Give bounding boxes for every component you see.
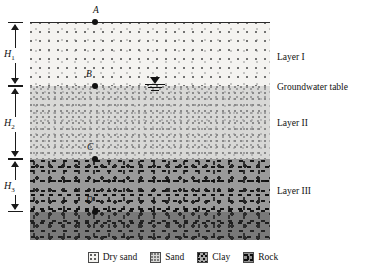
- legend-label-rock: Rock: [258, 253, 278, 263]
- layer-iii-rock: [30, 159, 270, 240]
- layer-ii-label: Layer II: [277, 119, 308, 129]
- h1-label: H1: [3, 48, 16, 63]
- point-b-label: B: [86, 70, 92, 80]
- h3-label: H3: [3, 180, 16, 195]
- h3-tick-bottom: [8, 211, 23, 212]
- dimension-h3: H3: [0, 159, 30, 212]
- dimension-h2: H2: [0, 86, 30, 159]
- legend-item-sand: Sand: [150, 252, 184, 263]
- rock-swatch-icon: [243, 252, 254, 263]
- layer-ii-sand: [30, 86, 270, 159]
- legend-label-clay: Clay: [212, 253, 230, 263]
- point-a-dot: [92, 19, 98, 25]
- point-d-label: D: [86, 196, 93, 206]
- point-b-dot: [92, 83, 98, 89]
- h3-arrow-down: [11, 204, 19, 210]
- water-line-1: [145, 84, 165, 85]
- dimension-h1: H1: [0, 22, 30, 86]
- dry-sand-swatch-icon: [88, 252, 99, 263]
- water-line-2: [148, 87, 162, 88]
- water-line-3: [151, 90, 159, 91]
- clay-swatch-icon: [197, 252, 208, 263]
- point-a-label: A: [93, 6, 99, 16]
- ground-surface-line: [30, 22, 270, 23]
- legend-item-rock: Rock: [243, 252, 278, 263]
- soil-profile-figure: H1 H2 H3 A B C D Layer I Groundwater tab…: [0, 0, 366, 278]
- layer-iii-label: Layer III: [277, 187, 311, 197]
- h2-arrow-down: [11, 151, 19, 157]
- h2-tick-top: [8, 86, 23, 87]
- point-c-dot: [92, 156, 98, 162]
- soil-column: [30, 22, 270, 240]
- layer-i-label: Layer I: [277, 53, 305, 63]
- legend-item-dry-sand: Dry sand: [88, 252, 138, 263]
- groundwater-table-label: Groundwater table: [277, 83, 348, 93]
- h3-tick-top: [8, 159, 23, 160]
- water-triangle-icon: [150, 77, 160, 84]
- rock-saturated-band: [30, 212, 270, 240]
- point-c-label: C: [87, 143, 93, 153]
- legend: Dry sand Sand Clay Rock: [0, 252, 366, 263]
- legend-label-sand: Sand: [165, 253, 184, 263]
- sand-swatch-icon: [150, 252, 161, 263]
- h1-arrow-down: [11, 78, 19, 84]
- h1-tick-top: [8, 22, 23, 23]
- groundwater-table-icon: [145, 77, 165, 91]
- h2-label: H2: [3, 117, 16, 132]
- legend-item-clay: Clay: [197, 252, 230, 263]
- legend-label-dry-sand: Dry sand: [103, 253, 138, 263]
- point-d-dot: [92, 209, 98, 215]
